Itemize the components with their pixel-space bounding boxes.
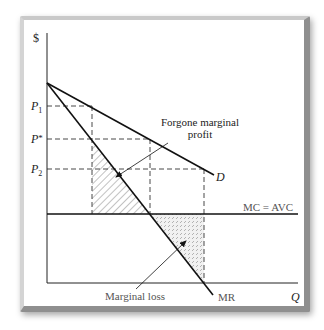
marginal-loss-arrow bbox=[136, 241, 186, 289]
demand-label: D bbox=[215, 170, 225, 184]
price-output-chart: $ Q P1 P* P2 D MR MC = AVC Forgone margi… bbox=[0, 0, 324, 330]
y-axis-label: $ bbox=[33, 31, 39, 45]
forgone-profit-label-line1: Forgone marginal bbox=[161, 116, 239, 128]
mr-label: MR bbox=[218, 291, 236, 303]
x-axis-label: Q bbox=[291, 290, 300, 304]
forgone-profit-arrow bbox=[116, 143, 168, 177]
tick-pstar: P* bbox=[30, 132, 43, 146]
mr-curve bbox=[47, 83, 213, 295]
mc-avc-label: MC = AVC bbox=[243, 201, 293, 213]
marginal-loss-label: Marginal loss bbox=[105, 290, 165, 302]
forgone-profit-label-line2: profit bbox=[188, 128, 212, 140]
tick-p2: P2 bbox=[30, 162, 42, 178]
tick-p1: P1 bbox=[30, 99, 42, 115]
